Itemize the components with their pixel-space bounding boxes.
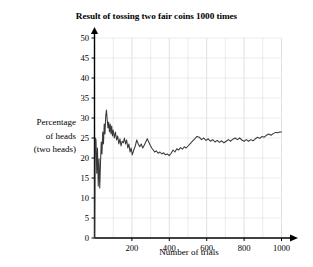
svg-text:5: 5 bbox=[85, 213, 89, 223]
x-axis-ticks: 2004006008001000 bbox=[125, 238, 290, 253]
y-axis-ticks: 05101520253035404550 bbox=[80, 33, 94, 243]
svg-text:20: 20 bbox=[80, 153, 89, 163]
svg-text:50: 50 bbox=[80, 33, 89, 43]
svg-text:15: 15 bbox=[80, 173, 89, 183]
svg-text:200: 200 bbox=[125, 243, 138, 253]
svg-text:25: 25 bbox=[80, 133, 89, 143]
svg-text:35: 35 bbox=[80, 93, 89, 103]
svg-text:10: 10 bbox=[80, 193, 89, 203]
svg-text:600: 600 bbox=[200, 243, 213, 253]
axes bbox=[91, 27, 298, 242]
chart-container: Result of tossing two fair coins 1000 ti… bbox=[0, 0, 313, 267]
svg-text:0: 0 bbox=[85, 233, 89, 243]
svg-text:45: 45 bbox=[80, 53, 89, 63]
svg-text:30: 30 bbox=[80, 113, 89, 123]
svg-text:800: 800 bbox=[238, 243, 251, 253]
svg-text:40: 40 bbox=[80, 73, 89, 83]
svg-text:1000: 1000 bbox=[273, 243, 290, 253]
svg-text:400: 400 bbox=[163, 243, 176, 253]
plot-area: 05101520253035404550 2004006008001000 bbox=[0, 0, 313, 267]
